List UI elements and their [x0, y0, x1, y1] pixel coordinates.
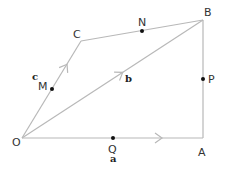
- edge-ob-diagonal: [22, 20, 203, 138]
- point-p-dot: [201, 77, 205, 81]
- label-o: O: [12, 136, 21, 149]
- vector-label-c: c: [32, 71, 38, 82]
- label-c: C: [73, 28, 81, 41]
- point-m-dot: [50, 87, 54, 91]
- point-q-dot: [111, 136, 115, 140]
- vector-label-a: a: [110, 153, 117, 164]
- label-b: B: [204, 6, 212, 19]
- point-n-dot: [140, 29, 144, 33]
- label-m: M: [38, 80, 48, 93]
- label-n: N: [138, 16, 146, 29]
- vector-diagram: O A B C M N P Q a b c: [0, 0, 226, 174]
- label-p: P: [208, 73, 215, 86]
- vector-label-b: b: [125, 73, 132, 84]
- label-a: A: [198, 146, 206, 159]
